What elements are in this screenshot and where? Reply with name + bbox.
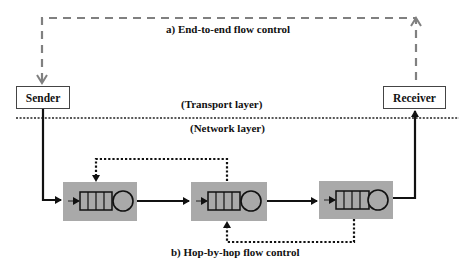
arrow-up-icon	[223, 221, 231, 228]
router-2	[191, 182, 267, 221]
sender-node: Sender	[16, 86, 70, 109]
hop-by-hop-caption: b) Hop-by-hop flow control	[171, 246, 299, 258]
transport-layer-label: (Transport layer)	[181, 98, 262, 110]
router-3	[319, 181, 393, 219]
flow-control-diagram	[0, 0, 459, 269]
router-1	[63, 182, 137, 221]
end-to-end-caption: a) End-to-end flow control	[166, 23, 290, 35]
arrow-down-icon	[92, 175, 100, 182]
network-layer-label: (Network layer)	[190, 122, 265, 134]
receiver-node: Receiver	[383, 86, 446, 109]
